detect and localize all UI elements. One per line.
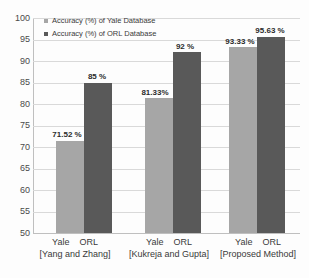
- value-label-yale-kukreja-and-gupta: 81.33%: [137, 88, 173, 97]
- bar-orl-kukreja-and-gupta: [173, 52, 201, 233]
- bar-yale-yang-and-zhang: [56, 141, 84, 234]
- y-tick-80: 80: [4, 100, 30, 109]
- legend-label-orl: Accuracy (%) of ORL Database: [52, 30, 156, 38]
- x-group-yang-and-zhang: Yale ORL [Yang and Zhang]: [24, 236, 126, 261]
- legend-label-yale: Accuracy (%) of Yale Database: [52, 17, 156, 25]
- x-axis-line: [33, 233, 300, 234]
- value-label-yale-yang-and-zhang: 71.52 %: [49, 130, 85, 139]
- x-label-orl-3: ORL: [262, 236, 281, 248]
- legend-swatch-icon-orl: [44, 32, 48, 36]
- x-label-orl-1: ORL: [79, 236, 98, 248]
- y-tick-100: 100: [4, 14, 30, 23]
- y-tick-90: 90: [4, 57, 30, 66]
- y-tick-95: 95: [4, 35, 30, 44]
- x-source-1: [Yang and Zhang]: [24, 248, 126, 261]
- x-source-3: [Proposed Method]: [206, 248, 309, 261]
- x-label-yale-3: Yale: [235, 236, 252, 248]
- bar-yale-proposed-method: [229, 47, 257, 233]
- bar-chart: 100 95 90 85 80 75 70 65 60 55 50: [0, 0, 309, 278]
- y-tick-60: 60: [4, 186, 30, 195]
- x-label-yale-2: Yale: [146, 236, 163, 248]
- bar-orl-proposed-method: [257, 37, 285, 233]
- value-label-orl-yang-and-zhang: 85 %: [79, 72, 115, 81]
- legend-item-orl: Accuracy (%) of ORL Database: [44, 28, 156, 39]
- x-group-pair-3: Yale ORL: [206, 236, 309, 248]
- value-label-yale-proposed-method: 93.33 %: [221, 37, 259, 46]
- y-tick-65: 65: [4, 164, 30, 173]
- y-tick-70: 70: [4, 143, 30, 152]
- bar-yale-kukreja-and-gupta: [145, 98, 173, 233]
- x-label-orl-2: ORL: [173, 236, 192, 248]
- x-group-pair-1: Yale ORL: [24, 236, 126, 248]
- x-label-yale-1: Yale: [52, 236, 69, 248]
- y-tick-75: 75: [4, 121, 30, 130]
- x-axis-group-labels: Yale ORL [Yang and Zhang] Yale ORL [Kukr…: [33, 236, 300, 278]
- value-label-orl-kukreja-and-gupta: 92 %: [167, 42, 203, 51]
- legend-item-yale: Accuracy (%) of Yale Database: [44, 15, 156, 26]
- y-tick-55: 55: [4, 207, 30, 216]
- legend-swatch-icon-yale: [44, 19, 48, 23]
- x-group-proposed-method: Yale ORL [Proposed Method]: [206, 236, 309, 261]
- legend: Accuracy (%) of Yale Database Accuracy (…: [44, 15, 156, 41]
- bar-orl-yang-and-zhang: [84, 83, 112, 234]
- y-tick-85: 85: [4, 78, 30, 87]
- value-label-orl-proposed-method: 95.63 %: [251, 26, 289, 35]
